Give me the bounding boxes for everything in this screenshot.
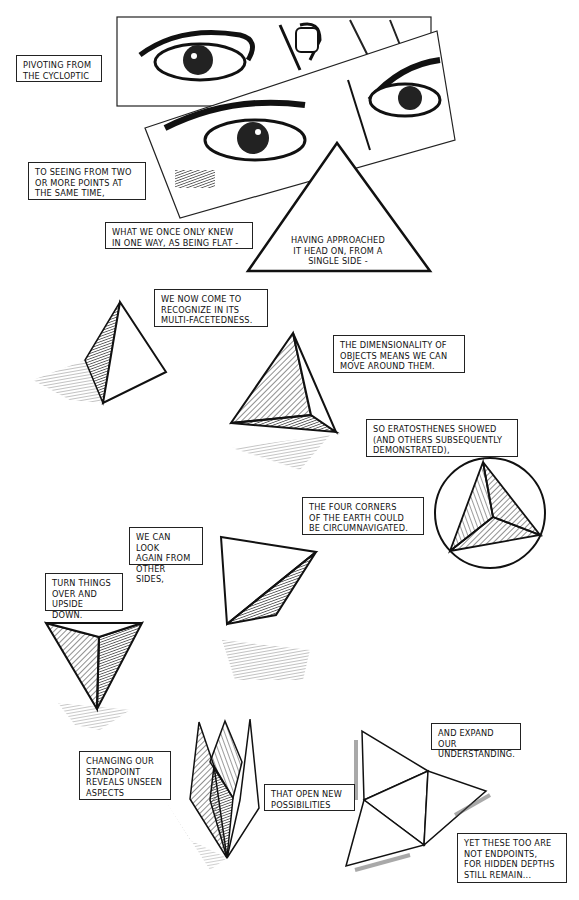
tetrahedron-upside-down [46, 623, 142, 730]
caption-multi-facetedness: WE NOW COME TO RECOGNIZE IN ITS MULTI-FA… [154, 289, 268, 327]
caption-pivoting: PIVOTING FROM THE CYCLOPTIC [16, 55, 102, 82]
caption-changing-standpoint: CHANGING OUR STANDPOINT REVEALS UNSEEN A… [79, 751, 171, 800]
caption-eratosthenes: SO ERATOSTHENES SHOWED (AND OTHERS SUBSE… [366, 419, 518, 457]
caption-once-flat: WHAT WE ONCE ONLY KNEW IN ONE WAY, AS BE… [105, 222, 253, 249]
caption-new-possibilities: THAT OPEN NEW POSSIBILITIES [264, 784, 355, 811]
tetrahedron-floating [231, 333, 336, 470]
tetrahedron-tilted [221, 537, 316, 680]
folded-crown-shape [165, 719, 259, 870]
tetrahedron-in-circle [435, 458, 545, 568]
caption-look-again: WE CAN LOOK AGAIN FROM OTHER SIDES, [129, 527, 203, 565]
caption-dimensionality: THE DIMENSIONALITY OF OBJECTS MEANS WE C… [333, 335, 465, 373]
caption-four-corners: THE FOUR CORNERS OF THE EARTH COULD BE C… [302, 497, 424, 535]
tetrahedron-shadow-left [33, 302, 166, 403]
caption-seeing-two-points: TO SEEING FROM TWO OR MORE POINTS AT THE… [28, 162, 146, 200]
caption-expand-understanding: AND EXPAND OUR UNDERSTANDING. [431, 723, 521, 750]
caption-turn-things: TURN THINGS OVER AND UPSIDE DOWN. [45, 573, 123, 611]
caption-head-on: HAVING APPROACHED IT HEAD ON, FROM A SIN… [284, 235, 392, 267]
caption-hidden-depths: YET THESE TOO ARE NOT ENDPOINTS, FOR HID… [457, 833, 567, 883]
